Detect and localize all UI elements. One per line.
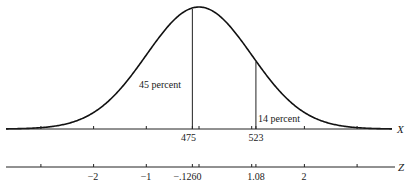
x-axis-name: X: [396, 123, 405, 135]
normal-curve: [6, 7, 392, 129]
z-label-minus-2: −2: [88, 171, 99, 182]
normal-distribution-chart: 45 percent 14 percent 475 523 X −2 −1 −.…: [0, 0, 410, 188]
z-label-minus-0126: −.126: [173, 171, 196, 182]
annotation-14-percent: 14 percent: [258, 113, 300, 124]
z-label-108: 1.08: [247, 171, 265, 182]
z-axis-name: Z: [398, 161, 405, 173]
annotation-45-percent: 45 percent: [139, 79, 181, 90]
x-label-523: 523: [249, 132, 264, 143]
z-label-minus-1: −1: [141, 171, 152, 182]
z-label-2: 2: [302, 171, 307, 182]
x-label-475: 475: [181, 132, 196, 143]
z-label-0: 0: [197, 171, 202, 182]
